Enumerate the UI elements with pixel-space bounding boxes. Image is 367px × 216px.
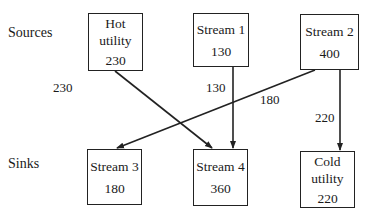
node-stream-2: Stream 2 400 [300,14,359,70]
node-name: Cold utility [311,153,343,187]
flow-label-stream-2-to-stream-3: 180 [260,92,280,108]
node-name: Hot utility [99,15,131,49]
sources-row-label: Sources [8,25,52,41]
node-value: 230 [105,52,125,69]
node-value: 180 [104,180,124,197]
flow-label-hot-utility-to-stream-4: 230 [53,80,73,96]
node-stream-3: Stream 3 180 [87,149,142,205]
node-name: Stream 1 [197,21,245,38]
node-value: 400 [319,45,339,62]
node-hot-utility: Hot utility 230 [88,13,143,71]
node-stream-1: Stream 1 130 [193,13,249,67]
sinks-row-label: Sinks [8,156,39,172]
node-name: Stream 2 [305,23,353,40]
arrow-hot-utility-to-stream-4 [115,71,212,148]
flow-label-stream-2-to-cold-utility: 220 [315,110,335,126]
node-value: 360 [210,180,230,197]
node-stream-4: Stream 4 360 [193,149,248,206]
flow-label-stream-1-to-stream-4: 130 [206,80,226,96]
node-name: Stream 4 [196,158,244,175]
node-value: 220 [317,190,337,207]
node-value: 130 [211,43,231,60]
node-cold-utility: Cold utility 220 [300,151,355,208]
node-name: Stream 3 [90,158,138,175]
